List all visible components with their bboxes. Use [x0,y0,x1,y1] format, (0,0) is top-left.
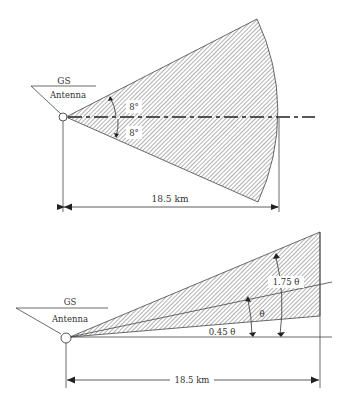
station-label: GS [57,76,70,86]
upper-angle-label: 1.75 θ [273,277,300,287]
lower-angle-label: 0.45 θ [209,327,236,337]
antenna-icon [59,113,67,121]
upper-angle-label: 8° [129,102,139,112]
antenna-icon [61,333,71,343]
antenna-coverage-diagram: GS Antenna 8° 8° 18.5 km GS Ant [0,0,348,408]
bottom-figure: GS Antenna 1.75 θ θ 0.45 θ 18.5 km [16,232,332,388]
antenna-label: Antenna [51,314,88,324]
coverage-sector [66,19,278,202]
lower-angle-label: 8° [129,128,139,138]
distance-label: 18.5 km [175,375,210,385]
distance-label: 18.5 km [152,194,189,204]
top-figure: GS Antenna 8° 8° 18.5 km [31,19,315,212]
antenna-label: Antenna [49,90,86,100]
middle-angle-label: θ [259,309,264,319]
station-label: GS [64,297,77,307]
